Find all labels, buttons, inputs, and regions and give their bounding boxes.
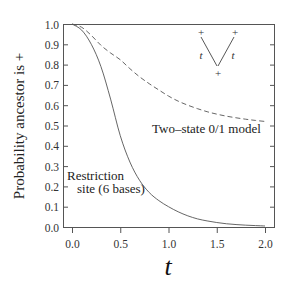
- y-tick-label: 0.9: [45, 39, 60, 51]
- y-tick-label: 0.3: [45, 161, 60, 173]
- y-tick-label: 0.0: [45, 222, 60, 234]
- x-tick-label: 0.0: [65, 238, 80, 250]
- annotation-restriction-line2: site (6 bases): [77, 181, 145, 196]
- two-state-model-curve: [72, 24, 265, 121]
- y-tick-label: 0.5: [45, 120, 60, 132]
- x-axis-ticks: 0.00.51.01.52.0: [65, 228, 273, 251]
- y-axis-label: Probability ancestor is +: [11, 53, 27, 199]
- y-tick-label: 0.2: [45, 181, 60, 193]
- y-tick-label: 1.0: [45, 19, 60, 31]
- y-tick-label: 0.1: [45, 201, 60, 213]
- y-tick-label: 0.4: [45, 140, 60, 152]
- tree-root: +: [215, 67, 221, 79]
- x-tick-label: 0.5: [114, 238, 129, 250]
- x-tick-label: 1.5: [210, 238, 225, 250]
- x-tick-label: 1.0: [162, 238, 177, 250]
- x-axis-label: t: [164, 252, 172, 281]
- annotation-two-state: Two–state 0/1 model: [152, 121, 261, 136]
- inset-tree-diagram: + + + t t: [198, 26, 238, 79]
- tree-leaf-left: +: [198, 26, 204, 38]
- probability-chart: 0.00.10.20.30.40.50.60.70.80.91.0 0.00.5…: [0, 0, 288, 292]
- tree-branch-left: [201, 37, 217, 66]
- tree-branch-left-label: t: [199, 49, 203, 61]
- y-tick-label: 0.7: [45, 79, 60, 91]
- y-tick-label: 0.6: [45, 100, 60, 112]
- y-tick-label: 0.8: [45, 59, 60, 71]
- x-tick-label: 2.0: [258, 238, 273, 250]
- tree-branch-right-label: t: [231, 49, 235, 61]
- tree-leaf-right: +: [232, 26, 238, 38]
